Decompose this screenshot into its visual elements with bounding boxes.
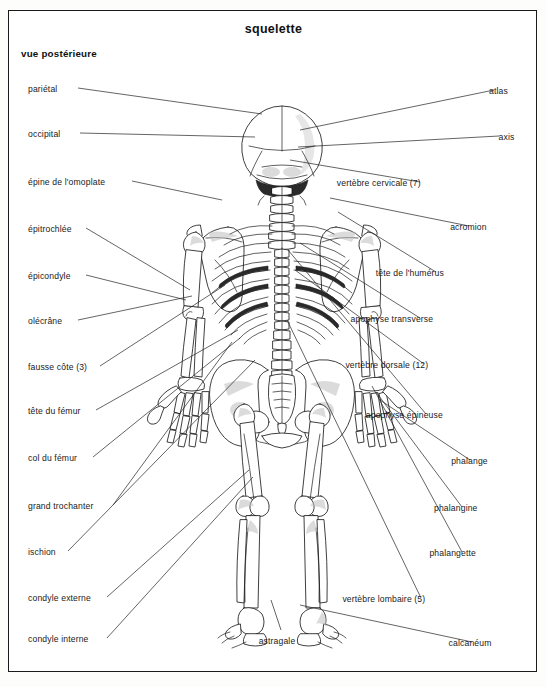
label-phalangine: phalangine <box>434 503 512 513</box>
label-acromion: acromion <box>450 222 510 232</box>
label-occipital: occipital <box>28 129 60 139</box>
label-condyle-externe: condyle externe <box>28 593 91 603</box>
leader-occipital <box>80 133 255 137</box>
leader-epitrochlee <box>86 228 190 290</box>
leader-apophyse-transverse <box>300 243 420 318</box>
label-parietal: pariétal <box>28 84 57 94</box>
leader-lines <box>0 0 547 687</box>
label-tete-du-femur: tête du fémur <box>28 406 81 416</box>
label-col-du-femur: col du fémur <box>28 453 77 463</box>
label-apophyse-epineuse: apophyse épineuse <box>366 410 508 420</box>
label-epine-de-l-omoplate: épine de l'omoplate <box>28 177 105 187</box>
label-atlas: atlas <box>489 86 521 96</box>
label-epitrochlee: épitrochlée <box>28 224 72 234</box>
leader-calcaneum <box>300 605 472 642</box>
label-phalange: phalange <box>451 456 511 466</box>
label-vertebre-dorsale-12: vertèbre dorsale (12) <box>345 360 524 370</box>
leader-tete-de-l-humerus <box>338 212 436 272</box>
label-astragale: astragale <box>259 636 296 646</box>
label-condyle-interne: condyle interne <box>28 634 89 644</box>
label-grand-trochanter: grand trochanter <box>28 501 93 511</box>
label-fausse-cote-3: fausse côte (3) <box>28 362 87 372</box>
leader-epine-de-l-omoplate <box>132 181 222 200</box>
label-olecrane: olécrâne <box>28 316 62 326</box>
leader-atlas <box>300 90 494 130</box>
label-vertebre-lombaire-5: vertèbre lombaire (5) <box>342 594 521 604</box>
leader-tete-du-femur <box>96 330 238 410</box>
leader-olecrane <box>78 296 192 320</box>
leader-phalange <box>380 400 470 460</box>
label-calcaneum: calcanéum <box>449 638 518 648</box>
label-tete-de-l-humerus: tête de l'humérus <box>376 268 518 278</box>
leader-condyle-interne <box>107 477 253 638</box>
leader-axis <box>298 136 499 147</box>
leader-grand-trochanter <box>113 342 232 505</box>
label-epicondyle: épicondyle <box>28 271 71 281</box>
leader-ischion <box>68 360 255 551</box>
label-phalangette: phalangette <box>429 548 516 558</box>
leader-acromion <box>330 198 469 226</box>
label-axis: axis <box>499 132 522 142</box>
label-ischion: ischion <box>28 547 56 557</box>
leader-fausse-cote-3 <box>100 285 225 366</box>
plate-page: squelette vue postérieure <box>0 0 547 687</box>
leader-parietal <box>78 88 262 114</box>
leader-astragale <box>271 600 281 630</box>
label-vertebre-cervicale-7: vertèbre cervicale (7) <box>337 178 525 188</box>
label-apophyse-transverse: apophyse transverse <box>351 314 512 324</box>
